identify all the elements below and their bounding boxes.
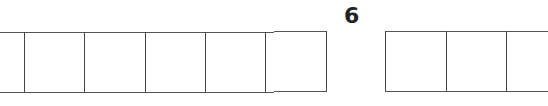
left-strip-divider [84, 32, 85, 92]
right-strip-start [385, 31, 386, 91]
right-strip-top-line [385, 31, 548, 32]
left-strip-bottom-line [0, 92, 274, 93]
right-strip-bottom-line [385, 91, 548, 92]
left-strip-divider [265, 32, 266, 92]
left-strip-divider [145, 32, 146, 92]
left-strip-top-line-ext [274, 31, 326, 32]
right-strip-divider [506, 31, 507, 91]
left-strip-divider [24, 32, 25, 92]
left-strip-divider [205, 32, 206, 92]
left-strip-end [326, 31, 327, 92]
left-strip-top-line [0, 32, 274, 33]
left-strip-bottom-line-ext [274, 91, 326, 92]
right-strip-divider [446, 31, 447, 91]
number-label: 6 [344, 3, 359, 29]
